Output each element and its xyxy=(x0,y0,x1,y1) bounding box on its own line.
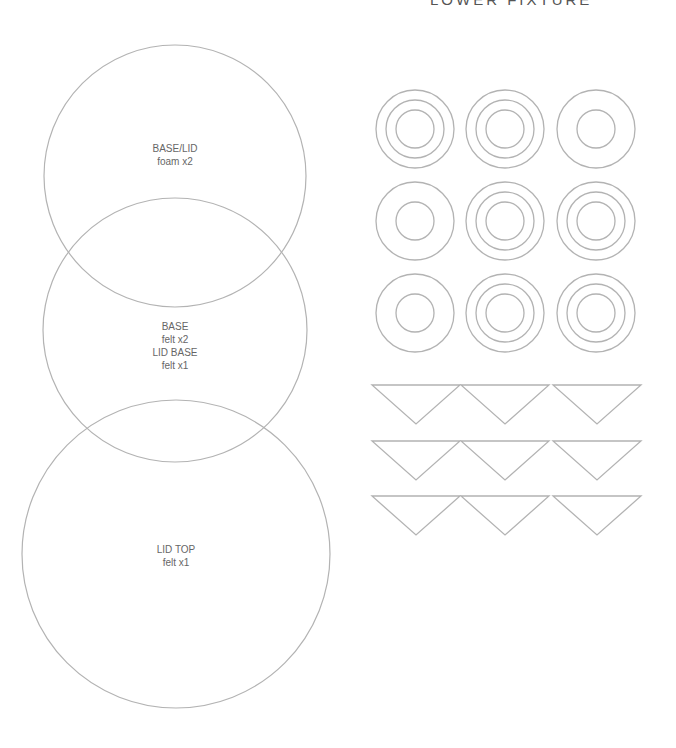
piece-label-line: foam x2 xyxy=(152,155,197,168)
piece-label-line: LID BASE xyxy=(152,346,197,359)
ring-piece xyxy=(466,274,544,352)
triangle-piece xyxy=(553,496,641,535)
piece-label-base-lid: BASE/LIDfoam x2 xyxy=(152,142,197,168)
ring-piece xyxy=(376,182,454,260)
ring-piece xyxy=(557,274,635,352)
triangle-piece xyxy=(553,385,641,424)
ring-piece xyxy=(557,182,635,260)
piece-label-line: LID TOP xyxy=(157,543,196,556)
triangle-piece xyxy=(553,441,641,480)
piece-label-base-lid-base: BASEfelt x2LID BASEfelt x1 xyxy=(152,320,197,372)
piece-label-line: felt x2 xyxy=(152,333,197,346)
ring-piece xyxy=(376,90,454,168)
ring-piece xyxy=(376,274,454,352)
triangle-piece xyxy=(461,441,549,480)
triangle-piece xyxy=(372,441,460,480)
triangle-piece xyxy=(461,385,549,424)
pattern-canvas xyxy=(0,0,676,748)
piece-label-line: BASE xyxy=(152,320,197,333)
triangle-piece xyxy=(372,385,460,424)
ring-piece xyxy=(466,90,544,168)
triangle-piece xyxy=(461,496,549,535)
piece-label-line: felt x1 xyxy=(157,556,196,569)
piece-label-lid-top: LID TOPfelt x1 xyxy=(157,543,196,569)
triangle-piece xyxy=(372,496,460,535)
ring-piece xyxy=(466,182,544,260)
ring-piece xyxy=(557,90,635,168)
piece-label-line: felt x1 xyxy=(152,359,197,372)
piece-label-line: BASE/LID xyxy=(152,142,197,155)
circle-piece-base-lid xyxy=(44,45,306,307)
